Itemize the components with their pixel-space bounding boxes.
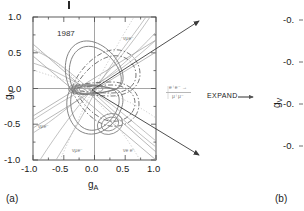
panel-b-y-tick-1: -0. — [283, 15, 294, 25]
panel-b-plot — [0, 0, 304, 211]
year-annotation: 1987 — [57, 30, 75, 38]
x-axis-label: gA — [88, 180, 98, 191]
y-axis-label: gV — [4, 90, 15, 100]
x-axis-label-sub: A — [94, 183, 99, 192]
panel-b-y-tick-4: -0. — [283, 141, 294, 151]
x-tick-label-5: 1.0 — [147, 164, 160, 174]
x-tick-label-4: 0.5 — [116, 164, 129, 174]
label-ee-mumu-numerator: e⁺e⁻ → — [169, 85, 187, 90]
y-axis-label-main: g — [3, 94, 14, 100]
expand-label: EXPAND — [207, 92, 238, 99]
label-nu-mu-e-bottom: νμe⁻ — [72, 148, 83, 153]
figure-root: 1.0 0.5 0.0 -0.5 -1.0 -1.0 -0.5 0.0 0.5 … — [0, 0, 304, 211]
label-ee-mumu-denominator: μ⁺μ⁻ — [172, 94, 184, 99]
y-tick-label-5: -1.0 — [4, 155, 20, 165]
panel-b-y-tick-2: -0. — [283, 57, 294, 67]
panel-b-y-axis-label: gV — [272, 98, 283, 108]
label-nu-e-e-bottom-right: νe e⁻ — [123, 148, 135, 153]
label-nu-mu-e-upper-right: νμe⁻ — [123, 36, 134, 41]
y-axis-label-sub: V — [7, 90, 16, 95]
panel-b-ticks — [299, 20, 303, 146]
panel-b-label: (b) — [275, 194, 287, 204]
x-tick-label-1: -1.0 — [21, 164, 37, 174]
label-nu-mu-e-left: νμe⁻ — [38, 124, 49, 129]
x-tick-label-3: 0.0 — [85, 164, 98, 174]
y-tick-label-2: 0.5 — [8, 48, 21, 58]
panel-a-label: (a) — [6, 194, 18, 204]
y-tick-label-1: 1.0 — [8, 12, 21, 22]
x-tick-label-2: -0.5 — [52, 164, 68, 174]
panel-b-y-tick-3: -0. — [283, 99, 294, 109]
panel-b-y-axis-label-sub: V — [275, 98, 284, 103]
panel-b-y-axis-label-main: g — [271, 102, 282, 108]
y-tick-label-4: -0.5 — [4, 119, 20, 129]
